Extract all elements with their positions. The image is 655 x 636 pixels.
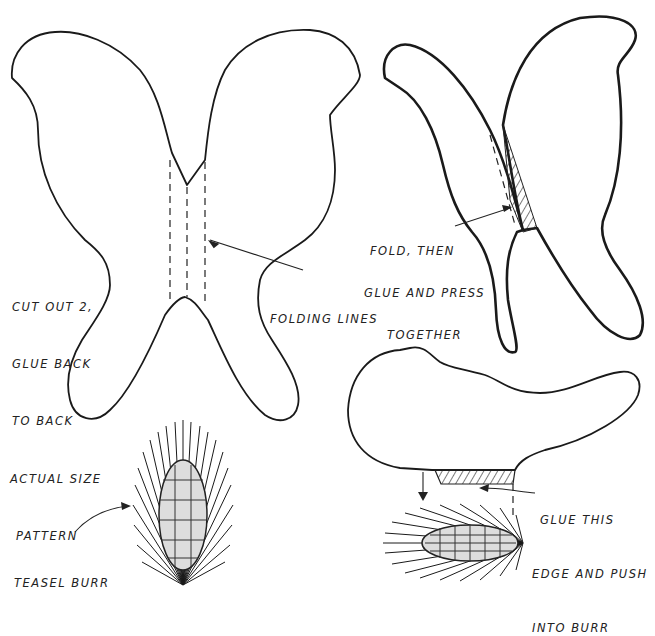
label-line: ACTUAL SIZE (10, 470, 102, 489)
side-wing-outline (348, 347, 639, 470)
label-line: GLUE THIS (532, 511, 648, 529)
glue-this-arrow (483, 488, 535, 493)
arrowhead-icon (479, 484, 489, 492)
label-line: CUT OUT 2, (12, 298, 93, 317)
label-line: FOLD, THEN (364, 244, 485, 258)
label-line: TEASEL BURR (14, 574, 110, 593)
label-line: TO BACK (12, 412, 93, 431)
label-teasel-burr: TEASEL BURR (14, 536, 110, 612)
label-glue-this: GLUE THIS EDGE AND PUSH INTO BURR (532, 475, 648, 636)
arrowhead-icon (418, 492, 428, 501)
burr-core (159, 460, 207, 570)
label-line: TOGETHER (364, 328, 485, 342)
label-line: FOLDING LINES (270, 310, 378, 329)
label-fold-then: FOLD, THEN GLUE AND PRESS TOGETHER (364, 216, 485, 356)
arrowhead-icon (121, 502, 131, 510)
label-line: GLUE BACK (12, 355, 93, 374)
label-line: INTO BURR (532, 619, 648, 636)
label-folding-lines: FOLDING LINES (270, 272, 378, 348)
label-line: EDGE AND PUSH (532, 565, 648, 583)
label-line: GLUE AND PRESS (364, 286, 485, 300)
folded-right-wing-outline (503, 17, 643, 339)
label-cut-out: CUT OUT 2, GLUE BACK TO BACK (12, 260, 93, 450)
glue-edge-hatch (435, 470, 515, 484)
